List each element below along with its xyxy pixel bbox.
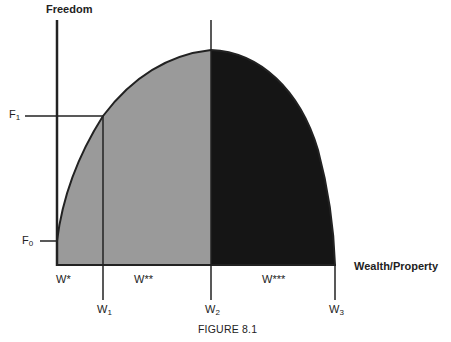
f1-sub: 1 [16,113,20,122]
region-w-2star: W** [134,273,153,285]
f0-base: F [22,234,29,246]
f0-label: F0 [22,234,33,248]
w3-label: W3 [329,303,344,317]
dark-region [211,50,335,265]
w2-base: W [205,303,215,315]
w1-sub: 1 [107,308,111,317]
region-w-star: W* [56,273,71,285]
region-w-3star: W*** [262,273,285,285]
w1-label: W1 [97,303,112,317]
y-axis-label: Freedom [46,3,92,15]
diagram-canvas [0,0,451,342]
x-axis-label: Wealth/Property [354,260,438,272]
w2-sub: 2 [215,308,219,317]
f1-base: F [9,108,16,120]
figure-caption: FIGURE 8.1 [198,323,257,335]
w2-label: W2 [205,303,220,317]
f1-label: F1 [9,108,20,122]
w1-base: W [97,303,107,315]
w3-base: W [329,303,339,315]
f0-sub: 0 [29,239,33,248]
w3-sub: 3 [339,308,343,317]
